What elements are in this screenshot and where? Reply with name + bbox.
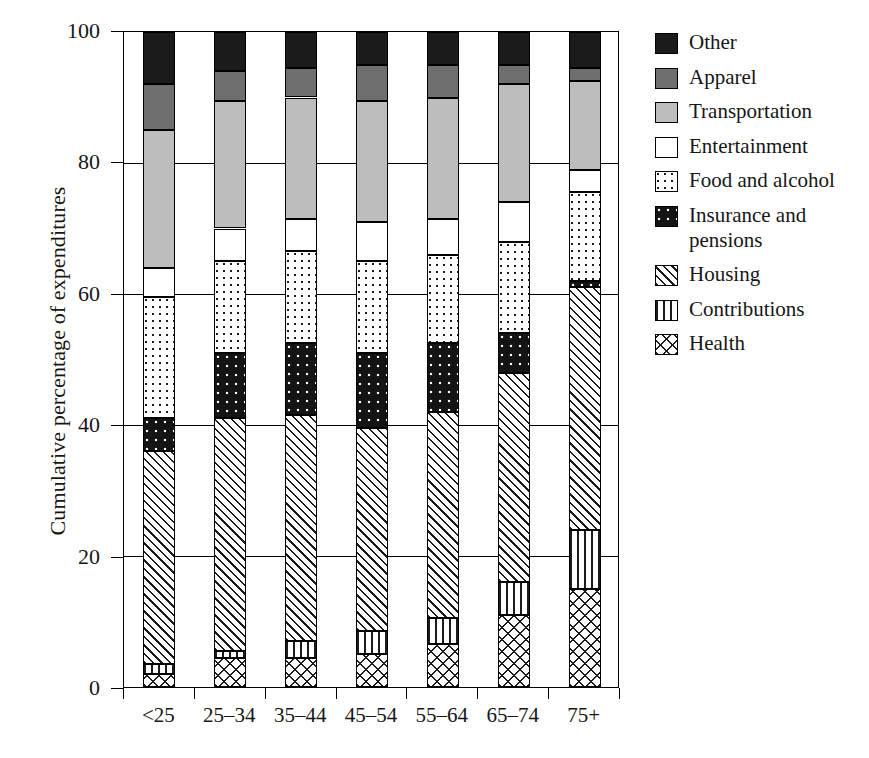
x-tick-label-75+: 75+	[567, 703, 600, 728]
x-tick-mark-2	[265, 688, 266, 699]
legend-item-health[interactable]: Health	[655, 331, 865, 356]
bar-segment-45–54-apparel	[356, 65, 388, 101]
x-tick-mark-0	[123, 688, 124, 699]
legend-item-entertainment[interactable]: Entertainment	[655, 134, 865, 159]
bar-segment-45–54-food-and-alcohol	[356, 261, 388, 353]
legend-label: Housing	[689, 262, 760, 287]
legend-label: Transportation	[689, 99, 812, 124]
stacked-bar-chart: Cumulative percentage of expenditures 02…	[0, 0, 869, 758]
y-tick-label-60: 60	[40, 281, 100, 307]
bar-segment-55–64-health	[427, 644, 459, 687]
bar-segment-65–74-other	[498, 32, 530, 65]
legend-label: Health	[689, 331, 745, 356]
bar-segment-35–44-food-and-alcohol	[285, 251, 317, 343]
bar-segment-25–34-transportation	[214, 101, 246, 229]
bar-segment-75+-entertainment	[569, 170, 601, 193]
legend-item-other[interactable]: Other	[655, 30, 865, 55]
bar-segment-25–34-other	[214, 32, 246, 71]
x-tick-label-65–74: 65–74	[486, 703, 539, 728]
bar-segment-75+-apparel	[569, 68, 601, 81]
legend-item-apparel[interactable]: Apparel	[655, 65, 865, 90]
bar-segment-75+-insurance-and-pensions	[569, 281, 601, 288]
legend-swatch-icon	[655, 102, 678, 123]
bar-segment-<25-entertainment	[143, 268, 175, 297]
bar-segment-25–34-insurance-and-pensions	[214, 353, 246, 419]
bar-55–64	[427, 32, 459, 687]
bar-segment-75+-transportation	[569, 81, 601, 169]
y-tick-mark-20	[111, 557, 123, 558]
bar-segment-45–54-health	[356, 654, 388, 687]
bar-segment-55–64-transportation	[427, 98, 459, 219]
x-tick-label-35–44: 35–44	[274, 703, 327, 728]
bar-segment-65–74-housing	[498, 373, 530, 583]
bar-segment-55–64-contributions	[427, 618, 459, 644]
y-tick-label-20: 20	[40, 544, 100, 570]
y-tick-mark-80	[111, 162, 123, 163]
bar-segment-25–34-housing	[214, 418, 246, 651]
y-tick-mark-100	[111, 31, 123, 32]
legend-swatch-icon	[655, 68, 678, 89]
x-axis-tick-labels: <2525–3435–4445–5455–6465–7475+	[123, 703, 619, 743]
legend-label: Other	[689, 30, 737, 55]
bar-segment-45–54-contributions	[356, 631, 388, 654]
bar-segment-75+-other	[569, 32, 601, 68]
legend-swatch-icon	[655, 334, 678, 355]
bar-segment-<25-contributions	[143, 664, 175, 674]
x-tick-mark-3	[336, 688, 337, 699]
bar-segment-55–64-other	[427, 32, 459, 65]
legend-swatch-icon	[655, 171, 678, 192]
y-tick-label-100: 100	[40, 18, 100, 44]
legend-item-food-and-alcohol[interactable]: Food and alcohol	[655, 168, 865, 193]
legend-label: Contributions	[689, 297, 805, 322]
bar-segment-35–44-housing	[285, 415, 317, 641]
bar-segment-45–54-housing	[356, 428, 388, 631]
plot-area	[123, 31, 619, 688]
bar-segment-<25-insurance-and-pensions	[143, 418, 175, 451]
x-tick-mark-5	[477, 688, 478, 699]
y-axis-tick-marks	[111, 31, 123, 688]
bar-35–44	[285, 32, 317, 687]
y-tick-mark-60	[111, 294, 123, 295]
y-tick-label-80: 80	[40, 149, 100, 175]
bar-segment-65–74-food-and-alcohol	[498, 242, 530, 334]
y-tick-mark-0	[111, 688, 123, 689]
legend-label: Entertainment	[689, 134, 808, 159]
bar-segment-<25-apparel	[143, 84, 175, 130]
legend-swatch-icon	[655, 206, 678, 227]
bar-segment-75+-contributions	[569, 530, 601, 589]
bar-segment-<25-health	[143, 674, 175, 687]
y-tick-label-0: 0	[40, 675, 100, 701]
bar-65–74	[498, 32, 530, 687]
legend-item-contributions[interactable]: Contributions	[655, 297, 865, 322]
x-tick-mark-7	[619, 688, 620, 699]
bar-segment-45–54-other	[356, 32, 388, 65]
x-axis-tick-marks	[123, 688, 619, 700]
bar-segment-55–64-apparel	[427, 65, 459, 98]
bar-segment-55–64-housing	[427, 412, 459, 618]
legend-item-housing[interactable]: Housing	[655, 262, 865, 287]
bar-segment-75+-food-and-alcohol	[569, 192, 601, 280]
bar-<25	[143, 32, 175, 687]
bar-segment-55–64-insurance-and-pensions	[427, 343, 459, 412]
bar-segment-65–74-apparel	[498, 65, 530, 85]
bar-segment-35–44-health	[285, 658, 317, 687]
bar-segment-35–44-entertainment	[285, 219, 317, 252]
legend-swatch-icon	[655, 300, 678, 321]
x-tick-mark-1	[194, 688, 195, 699]
legend-label: Food and alcohol	[689, 168, 835, 193]
x-tick-mark-4	[406, 688, 407, 699]
legend-item-insurance-and-pensions[interactable]: Insurance and pensions	[655, 203, 865, 253]
bar-segment-35–44-other	[285, 32, 317, 68]
bar-segment-45–54-insurance-and-pensions	[356, 353, 388, 428]
x-tick-label-25–34: 25–34	[203, 703, 256, 728]
bar-segment-65–74-transportation	[498, 84, 530, 202]
x-tick-label-55–64: 55–64	[416, 703, 469, 728]
x-tick-label-<25: <25	[142, 703, 175, 728]
bar-segment-55–64-entertainment	[427, 219, 459, 255]
bar-segment-75+-housing	[569, 287, 601, 529]
bar-segment-35–44-contributions	[285, 641, 317, 657]
bar-segment-65–74-entertainment	[498, 202, 530, 241]
legend-item-transportation[interactable]: Transportation	[655, 99, 865, 124]
bar-segment-<25-other	[143, 32, 175, 84]
y-tick-mark-40	[111, 425, 123, 426]
